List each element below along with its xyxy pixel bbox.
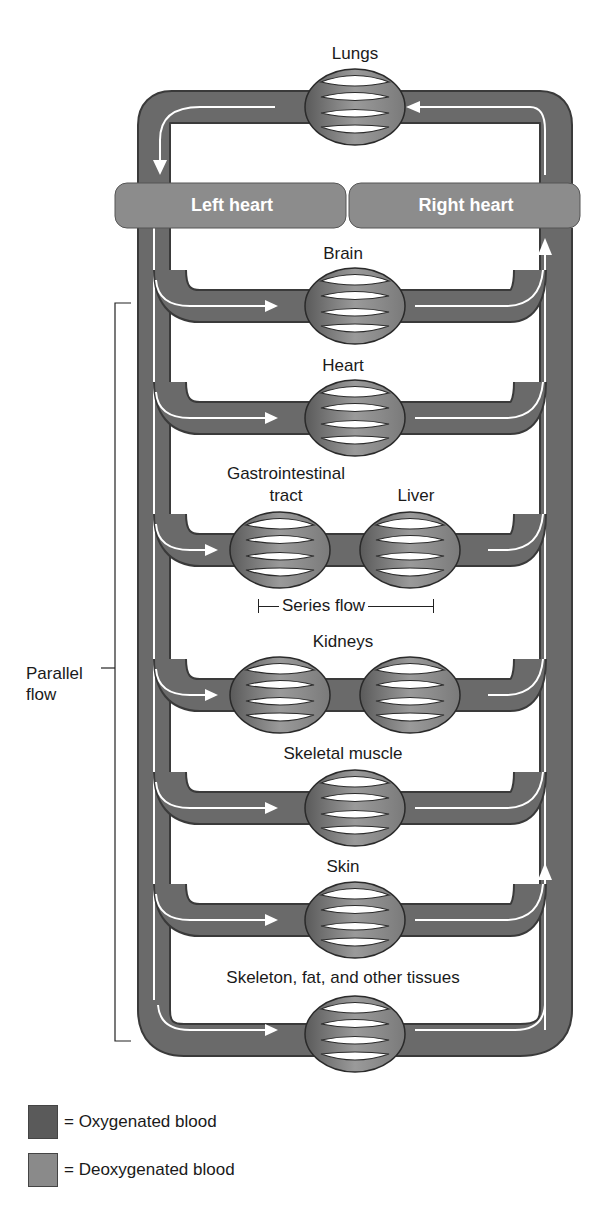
skin-capillary-icon	[305, 882, 405, 958]
organ-label-brain: Brain	[323, 244, 363, 264]
oxygenated-swatch	[28, 1105, 58, 1139]
right-heart-label: Right heart	[418, 195, 513, 216]
legend-deoxygenated: = Deoxygenated blood	[28, 1153, 235, 1187]
organ-label-kidneys: Kidneys	[313, 632, 373, 652]
skeletal-muscle-capillary-icon	[305, 770, 405, 846]
deoxygenated-swatch	[28, 1153, 58, 1187]
legend-oxygenated: = Oxygenated blood	[28, 1105, 217, 1139]
parallel-flow-label: Parallel flow	[26, 663, 83, 705]
gi-tract-capillary-icon	[230, 512, 330, 588]
organ-label-gi-line1: Gastrointestinal	[227, 464, 345, 484]
series-flow-indicator: Series flow	[258, 596, 434, 616]
left-heart-label: Left heart	[191, 195, 273, 216]
pulmonary-circuit	[153, 69, 556, 200]
organ-label-liver: Liver	[398, 486, 435, 506]
skeleton-capillary-icon	[305, 996, 405, 1072]
lungs-label: Lungs	[332, 44, 378, 64]
parallel-flow-bracket	[101, 303, 131, 1041]
organ-label-skeletal-muscle: Skeletal muscle	[283, 744, 402, 764]
brain-capillary-icon	[305, 268, 405, 344]
organ-branches	[156, 268, 545, 1072]
lungs-capillary-icon	[305, 69, 405, 145]
heart-capillary-icon	[305, 380, 405, 456]
liver-capillary-icon	[360, 512, 460, 588]
series-flow-label: Series flow	[279, 596, 368, 616]
organ-label-heart: Heart	[322, 356, 364, 376]
organ-label-skeleton: Skeleton, fat, and other tissues	[226, 968, 459, 988]
kidney-capillary-icon-1	[230, 657, 330, 733]
organ-label-gi-line2: tract	[269, 486, 302, 506]
kidney-capillary-icon-2	[360, 657, 460, 733]
organ-label-skin: Skin	[326, 857, 359, 877]
